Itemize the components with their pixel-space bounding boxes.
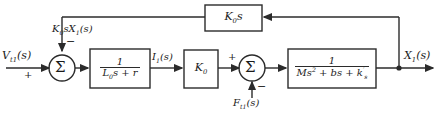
electrical-denominator: L0s + r: [100, 67, 139, 81]
gain-block-label: K0: [184, 50, 218, 88]
block-diagram-canvas: Vt1(s) + Σ − K0sX1(s) K0s 1 L0s + r I1(s…: [0, 0, 437, 113]
feedback-block-label: K0s: [205, 5, 262, 31]
input-signal-label: Vt1(s): [2, 50, 31, 64]
sum1-feedback-sign: −: [66, 36, 75, 47]
mechanical-block-label: 1 Ms2 + bs + k′s: [288, 49, 376, 88]
output-signal-label: X1(s): [404, 50, 430, 64]
disturbance-signal-label: Ft1(s): [233, 98, 259, 110]
summing-junction-1-symbol: Σ: [55, 60, 66, 75]
sum2-disturbance-sign: −: [257, 81, 266, 92]
mechanical-numerator: 1: [295, 56, 370, 67]
feedback-signal-label: K0sX1(s): [52, 24, 93, 36]
sum1-input-sign: +: [24, 70, 32, 80]
electrical-block-label: 1 L0s + r: [90, 49, 150, 88]
sum2-input-sign: +: [228, 52, 236, 62]
summing-junction-2-symbol: Σ: [245, 60, 256, 75]
electrical-numerator: 1: [100, 57, 139, 68]
mechanical-denominator: Ms2 + bs + k′s: [295, 66, 370, 81]
current-signal-label: I1(s): [152, 52, 173, 64]
